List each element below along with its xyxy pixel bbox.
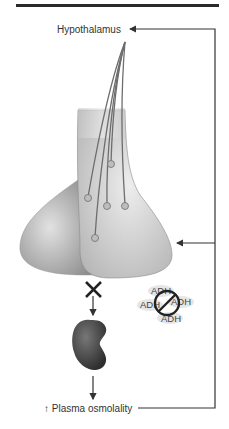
x-mark-icon: [86, 282, 101, 297]
diagram-canvas: ADH ADH ADH ADH: [0, 0, 229, 429]
kidney-icon: [72, 320, 106, 370]
